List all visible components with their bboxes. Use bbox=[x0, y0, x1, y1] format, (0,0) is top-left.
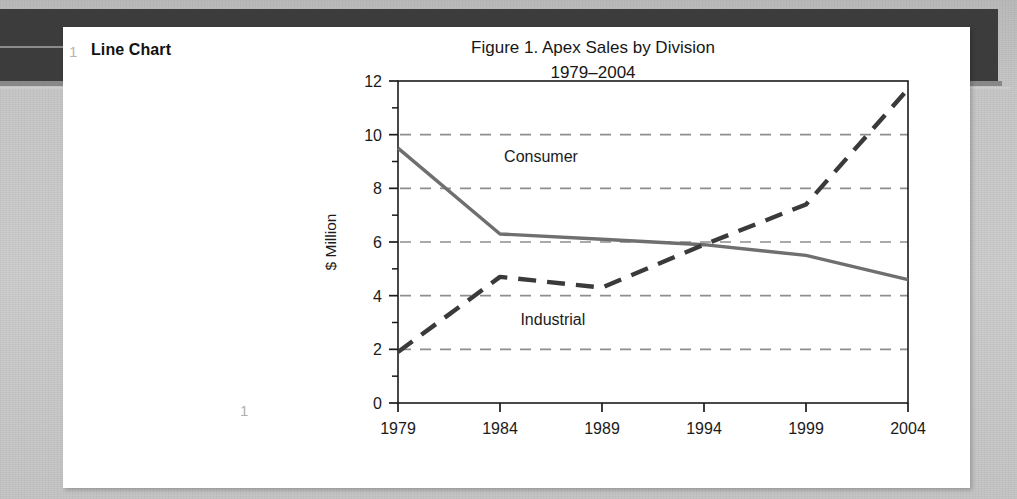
x-tick-label-1989: 1989 bbox=[584, 420, 620, 437]
figure-title-line-1: Figure 1. Apex Sales by Division bbox=[471, 38, 715, 57]
y-axis-title: $ Million bbox=[322, 214, 339, 271]
y-axis-tick-labels: 024681012 bbox=[364, 73, 382, 412]
series-label-industrial: Industrial bbox=[520, 311, 585, 328]
x-tick-label-1994: 1994 bbox=[686, 420, 722, 437]
line-chart: 024681012 197919841989199419992004 $ Mil… bbox=[243, 69, 943, 479]
x-tick-label-1984: 1984 bbox=[482, 420, 518, 437]
slide-page: 1 Line Chart Figure 1. Apex Sales by Div… bbox=[63, 27, 970, 488]
y-axis-ticks bbox=[389, 81, 398, 403]
y-tick-label-0: 0 bbox=[373, 395, 382, 412]
x-tick-label-2004: 2004 bbox=[890, 420, 926, 437]
x-tick-label-1979: 1979 bbox=[380, 420, 416, 437]
series-line-consumer bbox=[398, 148, 908, 279]
series-line-industrial bbox=[398, 89, 908, 352]
y-tick-label-4: 4 bbox=[373, 288, 382, 305]
slide-title: Line Chart bbox=[91, 41, 171, 59]
y-tick-label-2: 2 bbox=[373, 341, 382, 358]
data-series-group bbox=[398, 89, 908, 352]
chart-canvas: 024681012 197919841989199419992004 $ Mil… bbox=[243, 69, 943, 479]
y-tick-label-8: 8 bbox=[373, 180, 382, 197]
x-tick-label-1999: 1999 bbox=[788, 420, 824, 437]
y-tick-label-6: 6 bbox=[373, 234, 382, 251]
x-axis-tick-labels: 197919841989199419992004 bbox=[380, 420, 926, 437]
series-label-consumer: Consumer bbox=[504, 148, 578, 165]
y-axis-title-text: $ Million bbox=[322, 214, 339, 271]
y-tick-label-10: 10 bbox=[364, 127, 382, 144]
y-tick-label-12: 12 bbox=[364, 73, 382, 90]
x-axis-ticks bbox=[398, 403, 908, 412]
slide-number: 1 bbox=[69, 43, 77, 60]
